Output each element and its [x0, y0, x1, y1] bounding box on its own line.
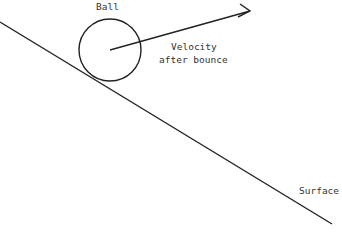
- bounce-diagram: Ball Velocity after bounce Surface: [0, 0, 342, 232]
- velocity-label-line2: after bounce: [159, 54, 228, 65]
- surface-label: Surface: [299, 185, 339, 196]
- velocity-arrowhead-icon: [238, 4, 250, 17]
- ball-label: Ball: [96, 1, 119, 12]
- velocity-label-line1: Velocity: [171, 41, 217, 52]
- surface-line: [0, 22, 332, 224]
